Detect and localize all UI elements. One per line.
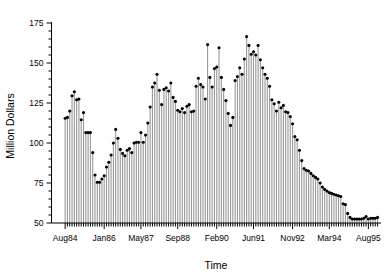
y-tick-label: 100 [29, 138, 43, 148]
x-tick-label: Mar94 [317, 233, 341, 243]
data-point [158, 89, 161, 92]
data-point [289, 115, 292, 118]
data-point [307, 169, 310, 172]
data-point [245, 35, 248, 38]
data-point [291, 122, 294, 125]
data-point [197, 77, 200, 80]
data-point [169, 81, 172, 84]
data-point [192, 109, 195, 112]
data-point [139, 131, 142, 134]
data-point [144, 133, 147, 136]
data-point [376, 216, 379, 219]
data-point [309, 172, 312, 175]
y-axis-title: Million Dollars [4, 93, 16, 158]
data-point [183, 111, 186, 114]
data-point [224, 99, 227, 102]
data-point [89, 131, 92, 134]
data-point [68, 109, 71, 112]
data-point [218, 46, 221, 49]
data-point [220, 76, 223, 79]
data-point [116, 137, 119, 140]
y-tick-label: 75 [34, 178, 44, 188]
data-point [153, 81, 156, 84]
data-point [201, 85, 204, 88]
data-point [77, 97, 80, 100]
data-point [321, 185, 324, 188]
data-point [365, 215, 368, 218]
data-point [82, 111, 85, 114]
data-point [98, 181, 101, 184]
data-point [234, 79, 237, 82]
data-point [259, 58, 262, 61]
chart-figure: 5075100125150175 Aug84Jan86May87Sep88Feb… [0, 0, 389, 274]
data-point [66, 116, 69, 119]
data-point [110, 153, 113, 156]
data-point [167, 89, 170, 92]
data-point [208, 76, 211, 79]
data-point [160, 103, 163, 106]
data-point [146, 121, 149, 124]
data-point [275, 109, 278, 112]
data-point [273, 102, 276, 105]
data-point [339, 195, 342, 198]
chart-plot-area: 5075100125150175 Aug84Jan86May87Sep88Feb… [0, 0, 389, 274]
data-point [261, 66, 264, 69]
data-point [80, 118, 83, 121]
data-point [222, 88, 225, 91]
data-point [257, 44, 260, 47]
data-point [211, 85, 214, 88]
data-point [114, 128, 117, 131]
data-point [280, 106, 283, 109]
data-point [91, 151, 94, 154]
data-point [250, 53, 253, 56]
data-point [199, 83, 202, 86]
data-point [229, 124, 232, 127]
data-point [73, 90, 76, 93]
x-tick-label: Jan86 [93, 233, 116, 243]
data-point [123, 154, 126, 157]
data-point [298, 149, 301, 152]
data-point [247, 44, 250, 47]
x-tick-label: Aug84 [53, 233, 78, 243]
data-point [268, 85, 271, 88]
data-point [236, 75, 239, 78]
data-point [103, 174, 106, 177]
data-point [151, 85, 154, 88]
data-point [181, 107, 184, 110]
x-tick-label: Sep88 [165, 233, 190, 243]
x-axis: Aug84Jan86May87Sep88Feb90Jun91Nov92Mar94… [52, 223, 382, 243]
data-point [293, 135, 296, 138]
data-point [344, 203, 347, 206]
data-point [316, 177, 319, 180]
data-point [155, 73, 158, 76]
data-point [227, 112, 230, 115]
data-point [178, 110, 181, 113]
data-point [93, 173, 96, 176]
data-point [282, 104, 285, 107]
data-point [137, 141, 140, 144]
data-point [188, 103, 191, 106]
data-point [215, 65, 218, 68]
data-point [252, 50, 255, 53]
data-point [121, 152, 124, 155]
x-axis-title: Time [205, 259, 228, 271]
data-point [266, 77, 269, 80]
data-point [195, 85, 198, 88]
data-point [238, 66, 241, 69]
data-point [206, 43, 209, 46]
data-point [286, 111, 289, 114]
data-point [119, 148, 122, 151]
data-point [128, 147, 131, 150]
data-point [346, 212, 349, 215]
data-point [254, 53, 257, 56]
data-point [263, 73, 266, 76]
data-point [142, 141, 145, 144]
data-point [296, 138, 299, 141]
data-point [112, 141, 115, 144]
data-point [204, 97, 207, 100]
y-tick-label: 175 [29, 18, 43, 28]
stem-group [65, 37, 377, 223]
x-tick-label: May87 [128, 233, 154, 243]
data-point [319, 181, 322, 184]
data-point [149, 105, 152, 108]
